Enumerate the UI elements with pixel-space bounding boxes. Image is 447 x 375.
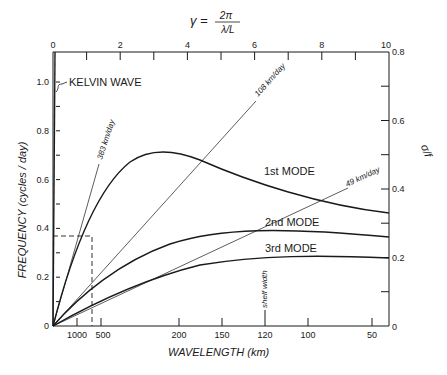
top-axis-ticks: 0 2 4 6 8 10 [50, 40, 391, 60]
formula-lhs: γ = [190, 13, 208, 28]
mode-1-label: 1st MODE [264, 165, 315, 177]
x-axis-title: WAVELENGTH (km) [168, 346, 270, 358]
left-tick-1.0: 1.0 [36, 77, 49, 87]
bottom-tick-50: 50 [367, 330, 377, 340]
kelvin-label: KELVIN WAVE [69, 76, 142, 88]
shelf-width-label: shelf width [260, 270, 269, 308]
dispersion-chart: γ = 2π λ/L 0 2 4 6 8 10 [0, 0, 447, 375]
ray-383-label: 383 km/day [95, 118, 117, 161]
ray-49-label: 49 km/day [344, 165, 382, 189]
right-tick-0.4: 0.4 [392, 184, 405, 194]
right-axis-title: σ/f [419, 143, 435, 160]
ray-108-label: 108 km/day [253, 61, 288, 98]
bottom-tick-100: 100 [300, 330, 315, 340]
left-tick-0: 0 [44, 321, 49, 331]
mode-2-label: 2nd MODE [265, 216, 319, 228]
top-tick-8: 8 [319, 40, 324, 50]
mode-3-curve [53, 256, 389, 326]
mode-3-label: 3rd MODE [265, 242, 317, 254]
y-axis-title: FREQUENCY (cycles / day) [16, 141, 28, 278]
mode-2-curve [53, 231, 389, 326]
bottom-axis-ticks: 1000 500 200 150 120 100 50 [67, 318, 377, 340]
right-tick-0.2: 0.2 [392, 253, 405, 263]
left-tick-0.6: 0.6 [36, 175, 49, 185]
bottom-tick-500: 500 [95, 330, 110, 340]
right-tick-0.6: 0.6 [392, 116, 405, 126]
kelvin-leader [56, 82, 67, 92]
left-tick-0.2: 0.2 [36, 272, 49, 282]
top-axis-formula: γ = 2π λ/L [190, 10, 240, 35]
top-tick-6: 6 [252, 40, 257, 50]
top-tick-4: 4 [185, 40, 190, 50]
left-axis-ticks: 0 0.2 0.4 0.6 0.8 1.0 [36, 77, 60, 331]
dashed-marker [53, 236, 92, 326]
reference-rays: 383 km/day 108 km/day 49 km/day [53, 61, 382, 326]
top-tick-0: 0 [50, 40, 55, 50]
right-tick-0: 0 [392, 322, 397, 332]
ray-108 [53, 101, 256, 326]
bottom-tick-1000: 1000 [67, 330, 87, 340]
axes-frame [53, 52, 389, 326]
left-tick-0.8: 0.8 [36, 126, 49, 136]
right-axis-ticks: 0 0.2 0.4 0.6 0.8 [381, 47, 405, 332]
bottom-tick-120: 120 [257, 330, 272, 340]
formula-denominator: λ/L [220, 24, 234, 35]
top-tick-10: 10 [381, 40, 391, 50]
top-tick-2: 2 [118, 40, 123, 50]
right-tick-0.8: 0.8 [392, 47, 405, 57]
bottom-tick-200: 200 [171, 330, 186, 340]
left-tick-0.4: 0.4 [36, 223, 49, 233]
bottom-tick-150: 150 [214, 330, 229, 340]
formula-numerator: 2π [219, 10, 233, 21]
